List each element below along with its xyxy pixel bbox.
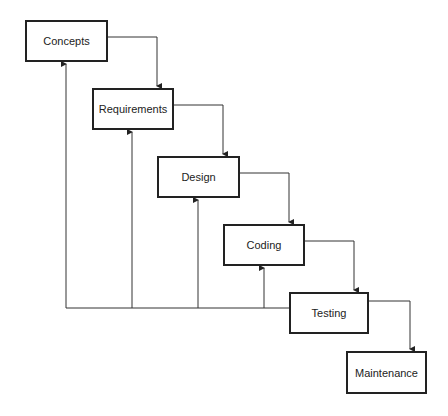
edge-design-coding	[240, 173, 289, 222]
stage-label: Requirements	[99, 103, 167, 115]
edge-concepts-requirements	[108, 37, 157, 86]
stage-label: Coding	[247, 239, 282, 251]
stage-label: Design	[181, 171, 215, 183]
edge-coding-testing	[305, 241, 354, 290]
stage-label: Testing	[312, 307, 347, 319]
edge-testing-maintenance	[369, 301, 410, 349]
stage-testing: Testing	[289, 292, 369, 334]
stage-requirements: Requirements	[92, 88, 174, 130]
stage-coding: Coding	[223, 224, 305, 266]
stage-label: Maintenance	[355, 367, 418, 379]
stage-design: Design	[157, 156, 240, 198]
edge-requirements-design	[174, 105, 223, 154]
stage-label: Concepts	[43, 35, 89, 47]
stage-maintenance: Maintenance	[346, 351, 427, 394]
stage-concepts: Concepts	[25, 20, 108, 62]
